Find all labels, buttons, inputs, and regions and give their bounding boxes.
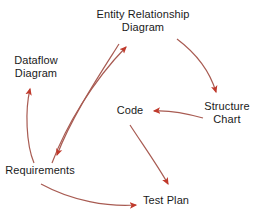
node-entity-relationship-diagram: Entity Relationship Diagram — [96, 8, 190, 34]
edge-code-to-testplan — [130, 125, 168, 184]
node-requirements: Requirements — [2, 164, 78, 177]
edge-structure-to-code — [154, 111, 203, 118]
node-test-plan: Test Plan — [141, 194, 191, 207]
node-structure-chart: Structure Chart — [200, 100, 254, 126]
node-dataflow-diagram: Dataflow Diagram — [8, 54, 64, 80]
edge-erd-to-req — [57, 44, 119, 155]
edge-req-to-testplan — [41, 184, 136, 205]
edge-req-to-dataflow — [27, 89, 34, 163]
flow-diagram: Entity Relationship Diagram Dataflow Dia… — [0, 0, 258, 223]
edge-erd-to-structure — [177, 39, 216, 92]
node-code: Code — [112, 104, 148, 117]
